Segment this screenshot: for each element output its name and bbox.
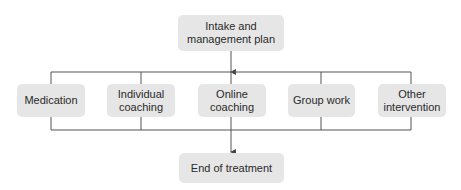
node-intake-and-management-plan: Intake and management plan (178, 15, 284, 51)
node-label: Other intervention (381, 88, 443, 114)
node-label: Online coaching (206, 88, 258, 114)
node-end-of-treatment: End of treatment (179, 153, 284, 183)
node-label: Individual coaching (113, 88, 169, 114)
node-label: Intake and management plan (181, 20, 281, 46)
node-other-intervention: Other intervention (378, 84, 446, 117)
treatment-flow-diagram: Intake and management plan Medication In… (0, 0, 461, 190)
node-label: End of treatment (191, 162, 272, 175)
node-label: Medication (24, 94, 77, 107)
node-label: Group work (293, 94, 350, 107)
node-online-coaching: Online coaching (198, 84, 266, 117)
node-medication: Medication (17, 84, 85, 117)
node-individual-coaching: Individual coaching (107, 84, 175, 117)
node-group-work: Group work (288, 84, 355, 117)
